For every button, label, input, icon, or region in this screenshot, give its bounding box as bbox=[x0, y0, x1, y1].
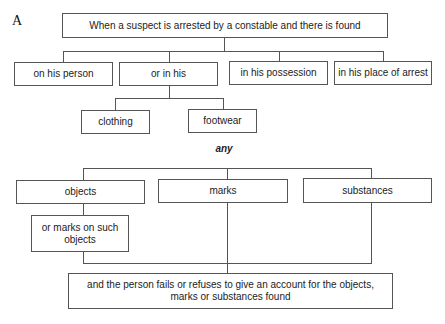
item-label: footwear bbox=[203, 115, 241, 127]
objects-sub-line: or marks on such bbox=[42, 222, 119, 234]
connector-to-marks bbox=[227, 168, 228, 179]
objects-sub-box: or marks on such objects bbox=[31, 215, 129, 252]
location-box-place-of-arrest: in his place of arrest bbox=[334, 61, 432, 85]
connector-to-clothing bbox=[115, 98, 116, 110]
location-label: in his possession bbox=[240, 67, 316, 79]
root-condition-box: When a suspect is arrested by a constabl… bbox=[62, 13, 388, 38]
conclusion-line: and the person fails or refuses to give … bbox=[87, 279, 374, 291]
connector-marks-down bbox=[227, 203, 228, 273]
finding-box-marks: marks bbox=[158, 179, 288, 203]
root-condition-text: When a suspect is arrested by a constabl… bbox=[89, 20, 360, 32]
conclusion-box: and the person fails or refuses to give … bbox=[68, 273, 393, 309]
connector-to-objects bbox=[83, 168, 84, 180]
connector-to-footwear bbox=[223, 98, 224, 109]
location-label: in his place of arrest bbox=[338, 67, 428, 79]
flowchart-canvas: A When a suspect is arrested by a consta… bbox=[0, 0, 445, 324]
item-label: clothing bbox=[98, 116, 132, 128]
location-label: or in his bbox=[151, 68, 186, 80]
finding-label: objects bbox=[65, 186, 97, 198]
connector-items-bar bbox=[115, 98, 224, 99]
connector-substances-down bbox=[371, 203, 372, 263]
finding-label: marks bbox=[209, 185, 236, 197]
conclusion-line: marks or substances found bbox=[170, 291, 290, 303]
location-box-in-his-possession: in his possession bbox=[229, 61, 328, 85]
connector-objects-sub-down bbox=[83, 252, 84, 263]
location-label: on his person bbox=[33, 68, 93, 80]
connector-to-or-in-his bbox=[169, 51, 170, 62]
connector-or-in-his-down bbox=[169, 86, 170, 98]
connector-word-any: any bbox=[204, 143, 244, 155]
location-box-on-his-person: on his person bbox=[14, 62, 113, 86]
finding-box-objects: objects bbox=[16, 180, 145, 204]
connector-to-substances bbox=[371, 168, 372, 178]
connector-objects-down bbox=[83, 204, 84, 215]
connector-to-person bbox=[63, 51, 64, 62]
finding-label: substances bbox=[342, 185, 393, 197]
connector-locations-bar bbox=[63, 51, 384, 52]
finding-box-substances: substances bbox=[303, 178, 432, 203]
item-box-footwear: footwear bbox=[188, 109, 257, 133]
objects-sub-line: objects bbox=[64, 234, 96, 246]
item-box-clothing: clothing bbox=[81, 110, 150, 134]
connector-root-down bbox=[224, 38, 225, 51]
figure-label: A bbox=[12, 14, 22, 28]
location-box-or-in-his: or in his bbox=[119, 62, 218, 86]
